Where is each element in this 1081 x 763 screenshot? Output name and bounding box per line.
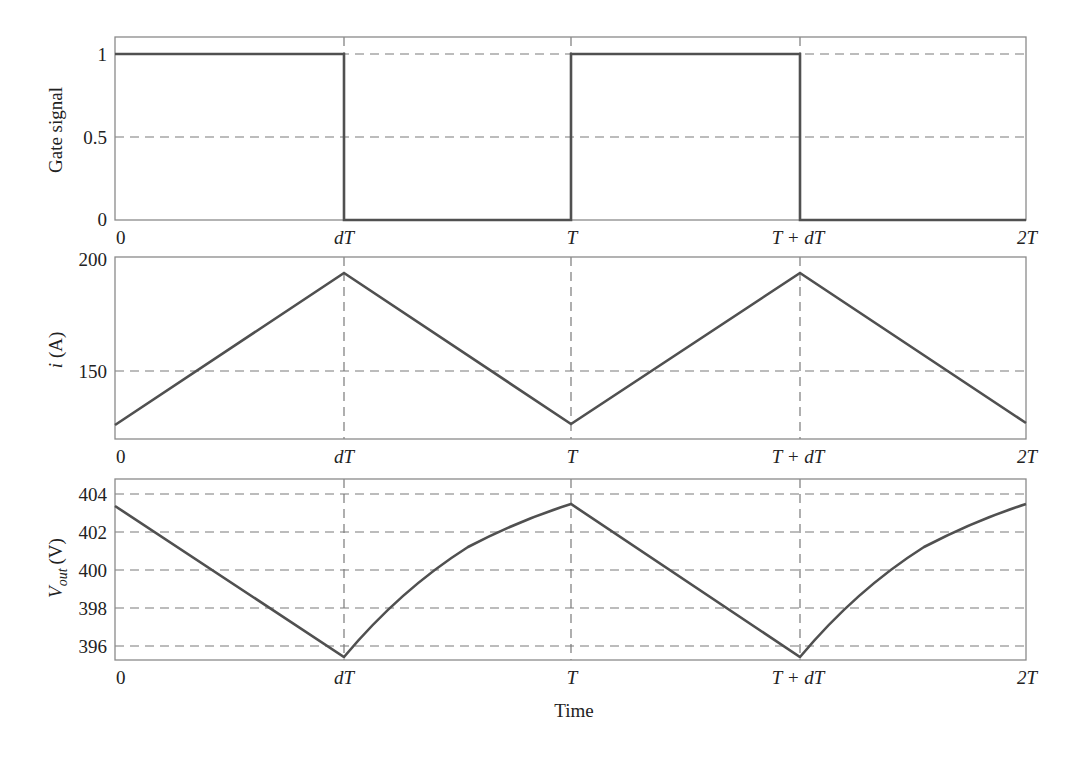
y-tick: 402 — [79, 522, 108, 543]
panel-gate-signal: 1 0.5 0 Gate signal 0 dT T T + dT 2T — [45, 37, 1038, 248]
y-tick: 200 — [79, 249, 108, 270]
x-axis-label: Time — [554, 700, 593, 721]
y-tick: 396 — [79, 636, 108, 657]
x-tick: T — [567, 667, 579, 688]
y-axis-label: Gate signal — [45, 87, 66, 173]
y-tick: 0.5 — [83, 127, 107, 148]
x-tick: 0 — [116, 446, 126, 467]
y-tick: 400 — [79, 560, 108, 581]
x-tick: T + dT — [772, 667, 826, 688]
panel-current: 200 150 i(A) 0 dT T T + dT 2T — [45, 249, 1038, 467]
panel-output-voltage: 404 402 400 398 396 Vout(V) 0 dT T T + d… — [45, 479, 1038, 721]
x-tick: 2T — [1017, 227, 1039, 248]
figure: 1 0.5 0 Gate signal 0 dT T T + dT 2T 200… — [0, 0, 1081, 763]
y-tick: 150 — [79, 361, 108, 382]
x-tick: T — [567, 446, 579, 467]
y-axis-label: i(A) — [45, 332, 67, 369]
x-tick: T + dT — [772, 227, 826, 248]
y-tick: 1 — [98, 44, 108, 65]
x-tick: T + dT — [772, 446, 826, 467]
x-tick: 0 — [116, 667, 126, 688]
x-tick: 2T — [1017, 446, 1039, 467]
x-tick: 2T — [1017, 667, 1039, 688]
x-tick: T — [567, 227, 579, 248]
x-tick: 0 — [116, 227, 126, 248]
y-tick: 404 — [79, 484, 108, 505]
y-axis-label: Vout(V) — [45, 538, 70, 598]
x-tick: dT — [334, 227, 356, 248]
x-tick: dT — [334, 446, 356, 467]
x-tick: dT — [334, 667, 356, 688]
y-tick: 0 — [98, 209, 108, 230]
y-tick: 398 — [79, 598, 108, 619]
